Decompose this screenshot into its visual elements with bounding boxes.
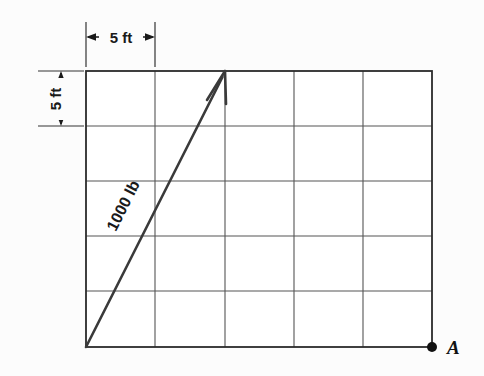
point-a-dot-icon [427,342,437,352]
horizontal-dimension-label: 5 ft [110,29,133,46]
vertical-dimension: 5 ft [38,71,84,126]
figure-canvas: 5 ft 5 ft 1000 lb A [0,0,484,376]
dim-arrow-left-icon [86,33,96,41]
statics-force-diagram: 5 ft 5 ft 1000 lb A [0,0,484,376]
dim-arrow-right-icon [145,33,155,41]
grid-background [86,71,432,347]
point-a-label: A [446,337,460,358]
grid-group [86,71,432,347]
horizontal-dimension: 5 ft [86,22,155,67]
vertical-dimension-label: 5 ft [47,88,64,111]
